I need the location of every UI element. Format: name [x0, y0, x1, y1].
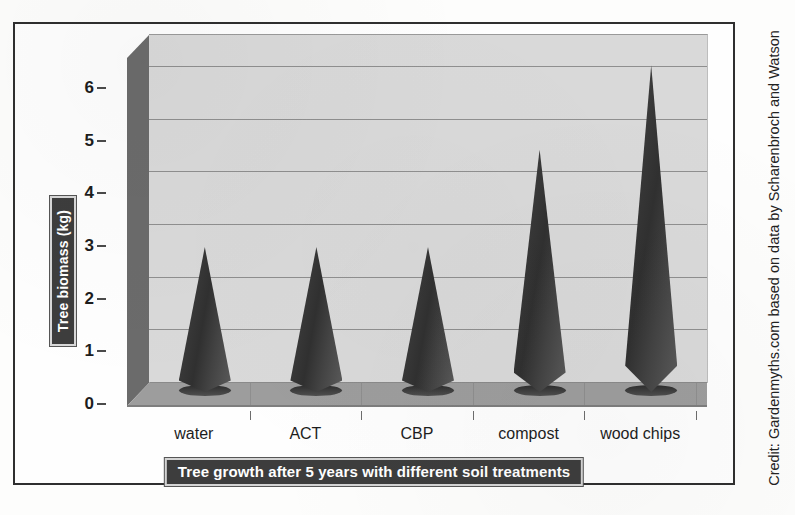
plot-area [127, 34, 707, 406]
credit-note: Credit: Gardenmyths.com based on data by… [752, 0, 795, 515]
y-tick-label: 0 [85, 394, 94, 414]
y-axis: 0123456 Tree biomass (kg) [28, 46, 128, 446]
credit-text: Credit: Gardenmyths.com based on data by… [766, 30, 782, 486]
cone-bar [261, 34, 373, 406]
y-axis-title-label: Tree biomass (kg) [55, 210, 71, 332]
y-tick-label: 2 [85, 289, 94, 309]
x-tick-label-wood-chips: wood chips [600, 425, 680, 443]
y-tick-label: 5 [85, 131, 94, 151]
y-tick-label: 6 [85, 78, 94, 98]
cone-body [290, 247, 342, 392]
cone-body [179, 247, 231, 392]
chart-title: Tree growth after 5 years with different… [165, 458, 583, 486]
y-tick-label: 4 [85, 183, 94, 203]
cone-shape [179, 247, 231, 392]
x-tick-label-ACT: ACT [289, 425, 321, 443]
y-tick-label: 3 [85, 236, 94, 256]
cone-bar [595, 34, 707, 406]
x-axis: waterACTCBPcompostwood chips [127, 419, 707, 453]
cone-bar [149, 34, 261, 406]
cone-shape [402, 247, 454, 392]
x-tick-label-compost: compost [498, 425, 558, 443]
cone-bar [372, 34, 484, 406]
x-tick-mark [696, 411, 697, 420]
y-axis-title: Tree biomass (kg) [50, 196, 76, 346]
x-tick-mark [473, 411, 474, 420]
y-tick-mark [97, 245, 106, 247]
cone-bar [484, 34, 596, 406]
y-tick-mark [97, 298, 106, 300]
y-tick-mark [97, 140, 106, 142]
cone-shape [290, 247, 342, 392]
plot-side-wall [127, 34, 150, 406]
cone-body [625, 65, 677, 392]
x-tick-mark [584, 411, 585, 420]
x-tick-label-CBP: CBP [401, 425, 434, 443]
y-tick-label: 1 [85, 341, 94, 361]
y-tick-mark [97, 192, 106, 194]
x-tick-mark [361, 411, 362, 420]
y-tick-mark [97, 403, 106, 405]
x-tick-mark [250, 411, 251, 420]
y-tick-mark [97, 350, 106, 352]
y-tick-mark [97, 87, 106, 89]
cone-shape [514, 150, 566, 392]
x-tick-label-water: water [174, 425, 213, 443]
cone-body [514, 150, 566, 392]
cone-body [402, 247, 454, 392]
cone-shape [625, 65, 677, 392]
chart-frame: 0123456 Tree biomass (kg) waterACTCBPcom… [13, 22, 735, 485]
